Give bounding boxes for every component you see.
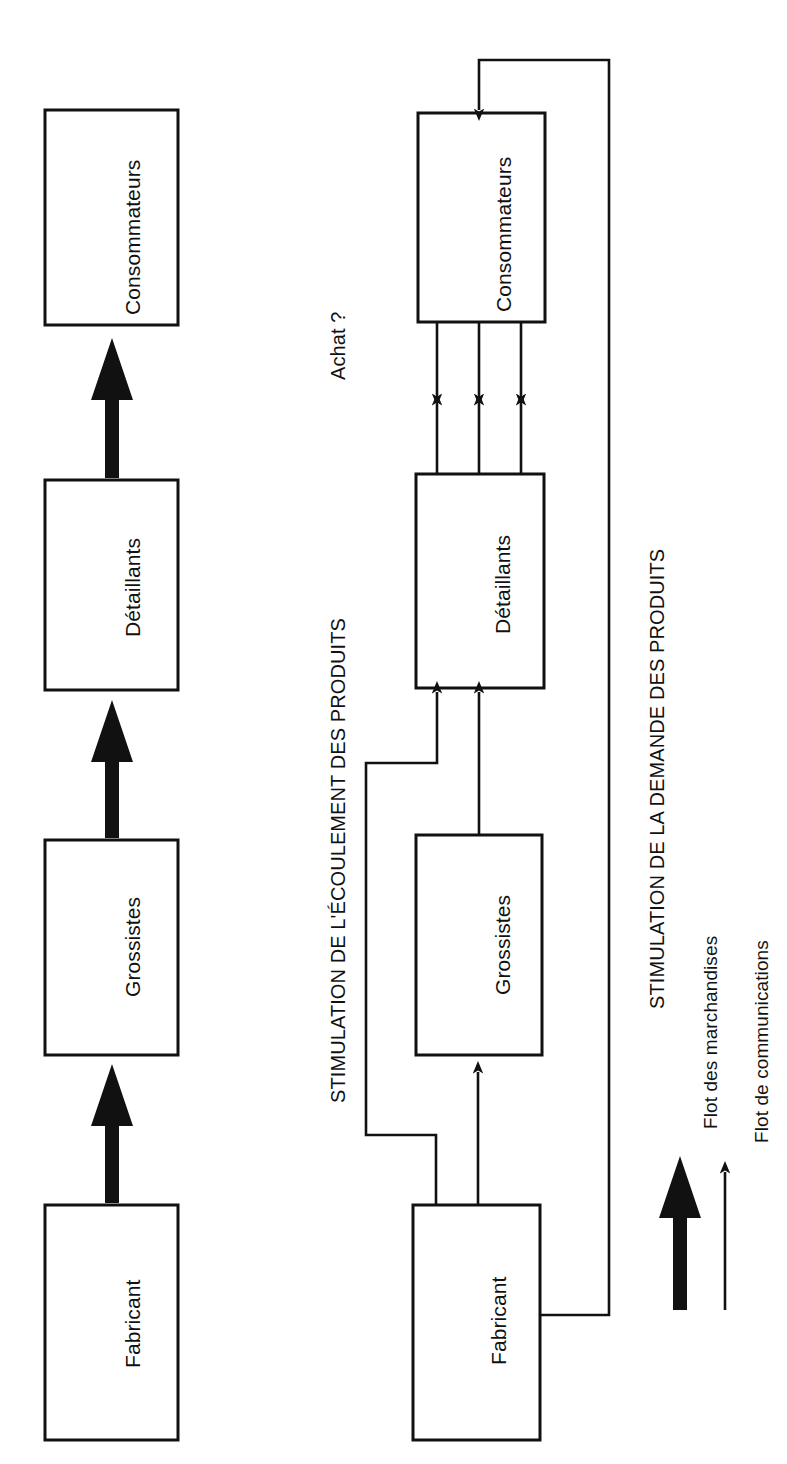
arrow-grossistes-detaillants [91, 700, 133, 838]
thick-arrow-icon [659, 1156, 701, 1310]
node2-label-fabricant: Fabricant [487, 1277, 511, 1365]
label-achat: Achat ? [327, 311, 350, 380]
panel-products-flow-graphics [45, 110, 178, 1440]
legend-graphics [659, 1156, 725, 1310]
node-box-fabricant [45, 1205, 178, 1440]
diagram-canvas: Consommateurs Détaillants Grossistes Fab… [0, 0, 787, 1464]
caption-stimulation-ecoulement: STIMULATION DE L'ÉCOULEMENT DES PRODUITS [327, 618, 350, 1103]
node-label-fabricant: Fabricant [121, 1280, 145, 1368]
arrow-fabricant-grossistes [91, 1064, 133, 1203]
node2-box-consommateurs [418, 113, 545, 322]
legend-label-marchandises: Flot des marchandises [700, 936, 722, 1129]
node-box-detaillants [45, 480, 178, 690]
caption-stimulation-demande: STIMULATION DE LA DEMANDE DES PRODUITS [646, 549, 669, 1009]
node2-box-fabricant [413, 1205, 540, 1440]
node2-label-consommateurs: Consommateurs [492, 157, 516, 312]
node2-label-detaillants: Détaillants [491, 535, 515, 634]
panel-demand-flow-graphics [366, 60, 609, 1440]
legend-label-communications: Flot de communications [751, 940, 773, 1143]
node-box-consommateurs [45, 110, 178, 325]
node2-box-detaillants [416, 474, 544, 688]
node-label-consommateurs: Consommateurs [121, 160, 145, 315]
node-label-detaillants: Détaillants [121, 538, 145, 637]
thick-flow-arrows [91, 338, 133, 1203]
node2-box-grossistes [416, 835, 542, 1055]
arrow-detaillants-consommateurs [91, 338, 133, 478]
node-label-grossistes: Grossistes [121, 897, 145, 997]
node-box-grossistes [45, 840, 178, 1055]
node2-label-grossistes: Grossistes [491, 895, 515, 995]
